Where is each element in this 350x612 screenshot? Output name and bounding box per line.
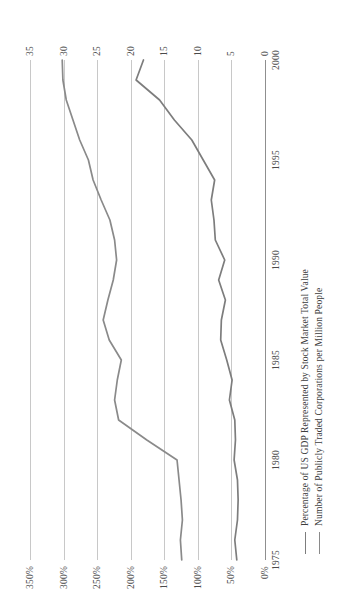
chart-legend: Percentage of US GDP Represented by Stoc…	[300, 269, 324, 554]
y-axis-left: 0%50%100%150%200%250%300%350%	[30, 566, 265, 612]
y-axis-tick-label: 100%	[193, 566, 203, 589]
y-axis-tick-label: 0%	[260, 566, 270, 579]
y-axis-tick-label: 350%	[25, 566, 35, 589]
legend-item[interactable]: Number of Publicly Traded Corporations p…	[314, 269, 324, 554]
y-axis-tick-label: 250%	[92, 566, 102, 589]
y2-axis-tick-label: 5	[226, 51, 236, 56]
x-axis-tick-label: 2000	[271, 50, 281, 70]
value-axis-baseline	[265, 60, 266, 560]
y-axis-tick-label: 150%	[159, 566, 169, 589]
y2-axis-tick-label: 10	[193, 46, 203, 56]
series-layer	[30, 60, 265, 560]
plot-area	[30, 60, 265, 560]
x-axis-tick-label: 1985	[271, 350, 281, 370]
x-axis: 197519801985199019952000	[271, 60, 287, 560]
x-axis-tick-label: 1975	[271, 550, 281, 570]
legend-item-label: Percentage of US GDP Represented by Stoc…	[300, 269, 310, 526]
legend-swatch-line-icon	[319, 532, 320, 554]
x-axis-tick-label: 1980	[271, 450, 281, 470]
chart-figure: 0%50%100%150%200%250%300%350% 0510152025…	[0, 0, 350, 612]
y-axis-tick-label: 50%	[226, 566, 236, 584]
y2-axis-tick-label: 20	[126, 46, 136, 56]
series-line-2	[62, 60, 182, 560]
y2-axis-tick-label: 25	[92, 46, 102, 56]
y-axis-right: 05101520253035	[30, 10, 265, 56]
rotated-figure-wrapper: 0%50%100%150%200%250%300%350% 0510152025…	[0, 0, 350, 612]
y2-axis-tick-label: 35	[25, 46, 35, 56]
y-axis-tick-label: 300%	[59, 566, 69, 589]
y-axis-tick-label: 200%	[126, 566, 136, 589]
x-axis-tick-label: 1990	[271, 250, 281, 270]
x-axis-tick-label: 1995	[271, 150, 281, 170]
y2-axis-tick-label: 30	[59, 46, 69, 56]
legend-swatch-line-icon	[305, 532, 306, 554]
y2-axis-tick-label: 0	[260, 51, 270, 56]
legend-item-label: Number of Publicly Traded Corporations p…	[314, 288, 324, 526]
legend-item[interactable]: Percentage of US GDP Represented by Stoc…	[300, 269, 310, 554]
series-line-1	[136, 60, 238, 560]
y2-axis-tick-label: 15	[159, 46, 169, 56]
